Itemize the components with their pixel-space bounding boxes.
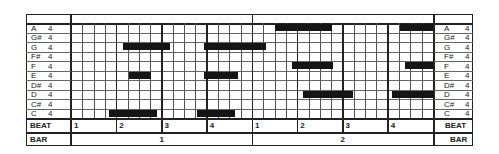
- octave-number: 4: [48, 52, 52, 62]
- octave-number: 4: [465, 100, 469, 110]
- pitch-name: E: [444, 71, 449, 81]
- bar-row-title-right: BAR: [450, 135, 467, 144]
- pitch-label-right: A4: [444, 24, 474, 34]
- pitch-name: G: [31, 43, 37, 53]
- grid-line: [94, 23, 95, 118]
- pitch-label-left: G4: [31, 43, 61, 53]
- pitch-label-left: C#4: [31, 100, 61, 110]
- octave-number: 4: [48, 33, 52, 43]
- pitch-label-left: A4: [31, 24, 61, 34]
- grid-line: [399, 23, 400, 118]
- octave-number: 4: [48, 100, 52, 110]
- pitch-label-right: G#4: [444, 33, 474, 43]
- octave-number: 4: [465, 52, 469, 62]
- pitch-label-left: C4: [31, 109, 61, 119]
- pitch-name: C#: [31, 100, 41, 110]
- grid-line: [241, 23, 242, 118]
- grid-line: [365, 23, 366, 118]
- grid-line: [139, 23, 140, 118]
- beat-number: 2: [300, 121, 304, 130]
- beat-number: 3: [346, 121, 350, 130]
- octave-number: 4: [465, 33, 469, 43]
- octave-number: 4: [465, 43, 469, 53]
- pitch-name: E: [31, 71, 36, 81]
- pitch-name: C#: [444, 100, 454, 110]
- pitch-name: C: [31, 109, 37, 119]
- beat-row-title: BEAT: [30, 121, 51, 130]
- grid-line: [422, 23, 423, 118]
- pitch-label-left: E4: [31, 71, 61, 81]
- pitch-name: G: [444, 43, 450, 53]
- octave-number: 4: [48, 24, 52, 34]
- pitch-label-left: G#4: [31, 33, 61, 43]
- note-block-d4[interactable]: [392, 91, 433, 98]
- note-block-a4[interactable]: [400, 24, 433, 31]
- pitch-label-right: F4: [444, 62, 474, 72]
- pitch-label-right: D4: [444, 90, 474, 100]
- grid-line: [410, 23, 411, 118]
- grid-line: [354, 23, 355, 118]
- grid-line: [150, 23, 151, 118]
- pitch-label-right: E4: [444, 71, 474, 81]
- beat-number: 3: [165, 121, 169, 130]
- octave-number: 4: [465, 81, 469, 91]
- bar-row-title: BAR: [30, 135, 47, 144]
- row-divider: [26, 118, 473, 120]
- grid-line: [331, 23, 332, 118]
- octave-number: 4: [48, 109, 52, 119]
- pitch-label-right: C4: [444, 109, 474, 119]
- note-block-e4[interactable]: [204, 72, 238, 79]
- pitch-name: G#: [444, 33, 455, 43]
- note-block-g4[interactable]: [123, 43, 170, 50]
- bar-line: [71, 14, 73, 146]
- note-block-f4[interactable]: [292, 62, 334, 69]
- beat-number: 2: [119, 121, 123, 130]
- octave-number: 4: [48, 43, 52, 53]
- pitch-label-right: F#4: [444, 52, 474, 62]
- note-block-c4[interactable]: [197, 110, 235, 117]
- beat-number: 4: [391, 121, 395, 130]
- pitch-name: C: [444, 109, 450, 119]
- octave-number: 4: [465, 109, 469, 119]
- note-block-f4[interactable]: [405, 62, 433, 69]
- pitch-name: D: [31, 90, 37, 100]
- grid-line: [218, 23, 219, 118]
- pitch-label-left: F4: [31, 62, 61, 72]
- pitch-name: F: [31, 62, 36, 72]
- octave-number: 4: [48, 90, 52, 100]
- pitch-label-left: F#4: [31, 52, 61, 62]
- pitch-label-right: C#4: [444, 100, 474, 110]
- note-block-a4[interactable]: [275, 24, 333, 31]
- octave-number: 4: [48, 71, 52, 81]
- beat-line: [342, 23, 344, 132]
- grid-line: [286, 23, 287, 118]
- pitch-name: A: [444, 24, 449, 34]
- grid-line: [376, 23, 377, 118]
- note-block-g4[interactable]: [204, 43, 265, 50]
- grid-line: [82, 23, 83, 118]
- pitch-label-left: D#4: [31, 81, 61, 91]
- octave-number: 4: [465, 62, 469, 72]
- octave-number: 4: [465, 24, 469, 34]
- grid-line: [275, 23, 276, 118]
- pitch-label-left: D4: [31, 90, 61, 100]
- octave-number: 4: [48, 62, 52, 72]
- note-block-d4[interactable]: [303, 91, 353, 98]
- octave-number: 4: [48, 81, 52, 91]
- octave-number: 4: [465, 90, 469, 100]
- pitch-name: A: [31, 24, 36, 34]
- bar-line: [433, 14, 435, 146]
- beat-line: [297, 23, 299, 132]
- pitch-label-right: D#4: [444, 81, 474, 91]
- grid-line: [195, 23, 196, 118]
- grid-line: [229, 23, 230, 118]
- pitch-name: D#: [31, 81, 41, 91]
- pitch-name: D#: [444, 81, 454, 91]
- grid-line: [309, 23, 310, 118]
- pitch-name: G#: [31, 33, 42, 43]
- note-block-c4[interactable]: [109, 110, 157, 117]
- note-block-e4[interactable]: [129, 72, 152, 79]
- grid-line: [128, 23, 129, 118]
- grid-line: [263, 23, 264, 118]
- pitch-name: D: [444, 90, 450, 100]
